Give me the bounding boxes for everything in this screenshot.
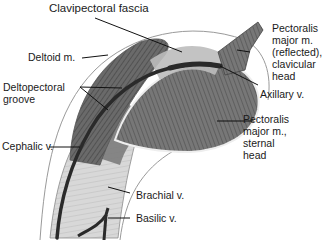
label-pectoralis-sternal-line3: sternal — [243, 137, 275, 149]
label-cephalic-vein: Cephalic v. — [2, 140, 53, 152]
label-pectoralis-clavicular-line5: head — [272, 70, 295, 82]
label-pectoralis-clavicular-line3: (reflected), — [272, 46, 322, 58]
label-pectoralis-clavicular-line1: Pectoralis — [272, 22, 318, 34]
label-deltopectoral-groove-line1: Deltopectoral — [3, 81, 65, 93]
label-pectoralis-clavicular-line4: clavicular — [272, 58, 316, 70]
label-pectoralis-clavicular-line2: major m. — [272, 34, 313, 46]
label-clavipectoral-fascia: Clavipectoral fascia — [49, 2, 149, 14]
label-axillary-vein: Axillary v. — [260, 88, 304, 100]
label-basilic-vein: Basilic v. — [136, 212, 177, 224]
label-pectoralis-sternal-line2: major m., — [243, 125, 287, 137]
label-pectoralis-sternal-line4: head — [243, 149, 266, 161]
label-pectoralis-sternal-line1: Pectoralis — [243, 113, 289, 125]
label-brachial-vein: Brachial v. — [136, 189, 184, 201]
label-deltoid: Deltoid m. — [28, 51, 75, 63]
label-deltopectoral-groove-line2: groove — [3, 93, 35, 105]
